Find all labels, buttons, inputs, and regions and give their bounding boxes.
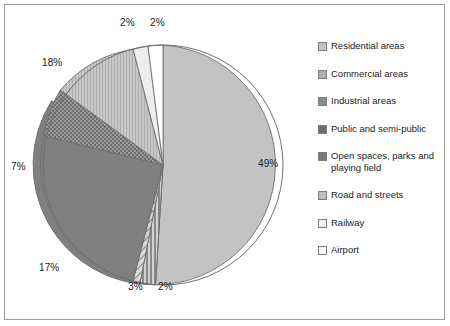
pie-label-open-spaces: 7% <box>11 161 26 172</box>
legend-swatch-icon-open-spaces <box>318 152 327 161</box>
legend-swatch-icon-airport <box>318 246 327 255</box>
legend-swatch-icon-public <box>318 125 327 134</box>
legend-item-railway[interactable]: Railway <box>318 217 446 229</box>
pie-label-commercial: 17% <box>39 262 59 273</box>
legend-item-airport[interactable]: Airport <box>318 244 446 256</box>
legend-item-industrial[interactable]: Industrial areas <box>318 95 446 107</box>
pie-label-public: 2% <box>158 281 173 292</box>
pie-chart-screenshot: 49% 17% 3% 2% 7% 18% 2% 2% Residential a… <box>0 0 450 326</box>
pie-label-railway: 2% <box>120 17 135 28</box>
legend-swatch-icon-railway <box>318 219 327 228</box>
legend-item-residential[interactable]: Residential areas <box>318 40 446 52</box>
legend-item-open-spaces[interactable]: Open spaces, parks and playing field <box>318 150 446 173</box>
pie-label-residential: 49% <box>258 158 278 169</box>
legend-label-open-spaces: Open spaces, parks and playing field <box>331 150 446 173</box>
legend-label-public: Public and semi-public <box>331 123 426 135</box>
legend-label-roads: Road and streets <box>331 189 403 201</box>
legend-item-roads[interactable]: Road and streets <box>318 189 446 201</box>
legend-swatch-icon-industrial <box>318 97 327 106</box>
legend-label-industrial: Industrial areas <box>331 95 396 107</box>
pie-label-roads: 18% <box>42 57 62 68</box>
pie-label-industrial: 3% <box>128 281 143 292</box>
chart-legend: Residential areas Commercial areas Indus… <box>318 40 446 272</box>
legend-swatch-icon-roads <box>318 191 327 200</box>
chart-area: 49% 17% 3% 2% 7% 18% 2% 2% Residential a… <box>0 0 450 326</box>
legend-swatch-icon-residential <box>318 42 327 51</box>
legend-label-railway: Railway <box>331 217 364 229</box>
legend-item-commercial[interactable]: Commercial areas <box>318 68 446 80</box>
pie-label-airport: 2% <box>150 17 165 28</box>
legend-label-commercial: Commercial areas <box>331 68 408 80</box>
legend-swatch-icon-commercial <box>318 70 327 79</box>
legend-label-airport: Airport <box>331 244 359 256</box>
legend-item-public[interactable]: Public and semi-public <box>318 123 446 135</box>
legend-label-residential: Residential areas <box>331 40 404 52</box>
